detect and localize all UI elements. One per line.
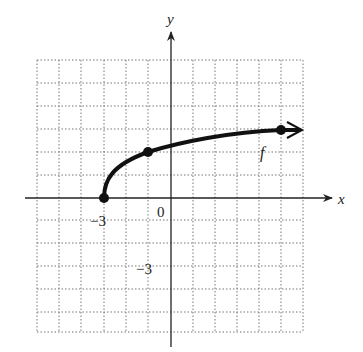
x-axis-label: x: [337, 191, 345, 207]
point-mid: [143, 147, 153, 157]
y-axis-label: y: [165, 11, 174, 27]
curve-label-f: f: [260, 144, 267, 162]
x-tick-neg3: −3: [90, 213, 106, 229]
point-start: [99, 193, 109, 203]
y-tick-neg3: −3: [136, 261, 152, 277]
origin-label: 0: [157, 204, 165, 220]
graph: y x 0 −3 −3 f: [0, 0, 363, 352]
curve-f: [104, 130, 298, 198]
grid: [37, 60, 303, 332]
point-end: [276, 125, 286, 135]
